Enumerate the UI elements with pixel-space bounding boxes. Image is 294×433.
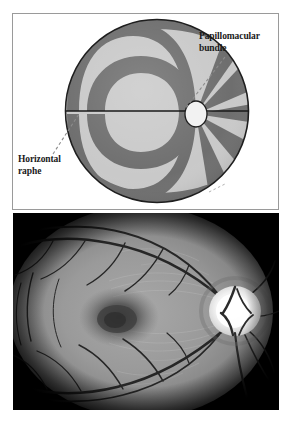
fundus-photograph-panel [13, 213, 279, 410]
fundus-photograph [13, 213, 279, 410]
optic-disc [185, 101, 207, 127]
photo-vignette [13, 213, 279, 410]
papillomacular-bundle-label: Papillomacular bundle [199, 31, 294, 54]
nerve-fiber-layer-diagram-panel: Papillomacular bundle Horizontal raphe [12, 13, 279, 210]
retinal-nerve-fiber-layer-figure: Papillomacular bundle Horizontal raphe [0, 0, 294, 433]
horizontal-raphe-label: Horizontal raphe [18, 154, 96, 177]
